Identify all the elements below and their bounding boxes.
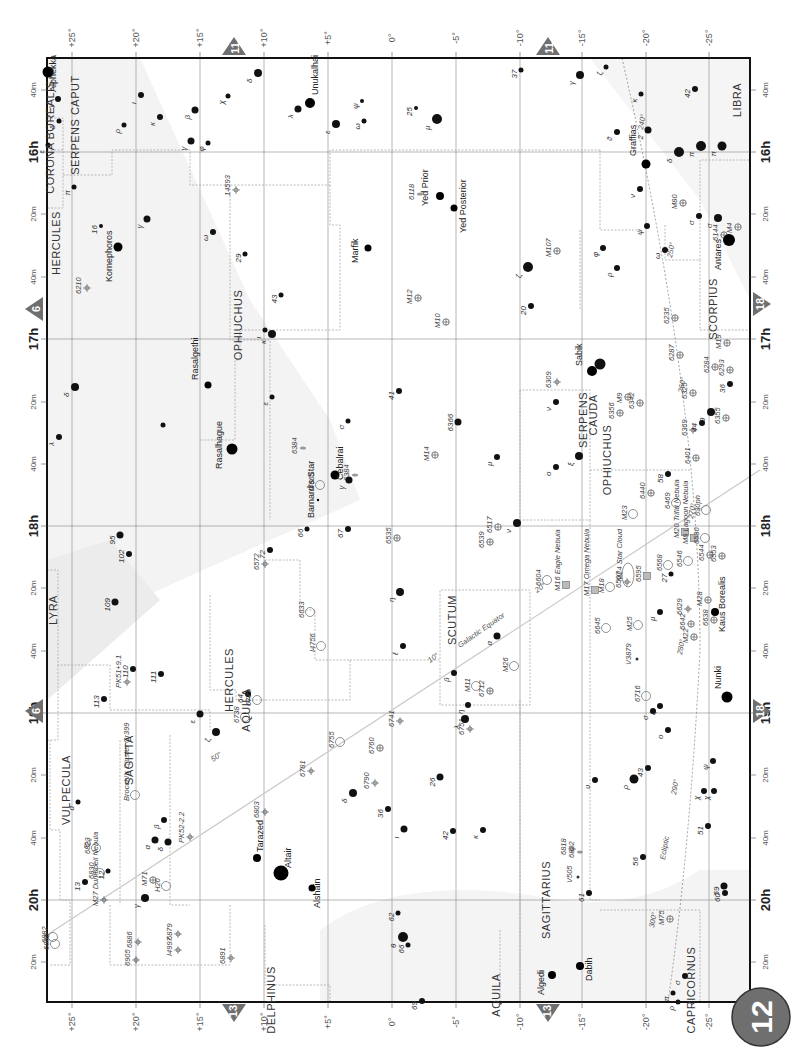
star-designation: ε <box>323 130 332 134</box>
nav-chart-number: 11 <box>543 42 555 54</box>
dso-label: 14593 <box>223 174 232 196</box>
star-marker <box>130 666 136 672</box>
constellation-name: HERCULES <box>50 211 62 275</box>
galaxy-icon <box>352 473 358 476</box>
nav-chart-number: 6 <box>30 708 42 714</box>
star-designation: 29 <box>234 253 243 263</box>
star-marker <box>461 715 469 723</box>
dso-label: 6535 <box>384 526 393 544</box>
star-designation: 36 <box>376 809 385 818</box>
dso-label: 6886 <box>125 930 134 948</box>
dso-label: V505 <box>565 865 574 883</box>
star-proper-name: Kornephoros <box>104 230 114 282</box>
star-designation: μ <box>485 461 494 467</box>
ra-label-left: 40m <box>29 830 38 846</box>
dso-label: M14 <box>422 446 431 461</box>
star-designation: μ <box>648 616 657 622</box>
dso-label: 6553 <box>709 544 718 562</box>
dec-label-bottom: +25° <box>67 1012 77 1031</box>
ra-label-left: 40m <box>29 643 38 659</box>
ra-label-left: 20h <box>26 889 41 911</box>
ra-label-right: 20m <box>761 767 770 783</box>
star-proper-name: Marfik <box>350 238 360 263</box>
star-designation: υ <box>583 784 592 789</box>
dec-label-bottom: 0° <box>387 1017 397 1026</box>
star-marker <box>212 728 220 736</box>
star-designation: χ <box>692 795 701 801</box>
star-designation: 20 <box>519 306 528 316</box>
dec-label-top: -5° <box>451 32 461 44</box>
constellation-name: SAGITTARIUS <box>540 861 552 939</box>
star-marker <box>710 758 716 764</box>
star-marker <box>432 114 442 124</box>
nav-chart-number: 6 <box>30 306 42 312</box>
ra-label-left: 20m <box>29 767 38 783</box>
star-designation: ε <box>188 720 197 724</box>
star-marker <box>161 423 166 428</box>
star-designation: δ <box>62 392 71 397</box>
star-marker <box>346 477 353 484</box>
star-designation: 111 <box>149 671 158 683</box>
ra-label-left: 40m <box>29 269 38 285</box>
dso-label: M26 <box>501 657 510 672</box>
ra-label-right: 40m <box>761 456 770 472</box>
star-marker <box>305 527 310 532</box>
star-designation: μ <box>423 125 432 131</box>
star-marker <box>640 854 646 860</box>
star-designation: 60 <box>713 893 722 902</box>
star-designation: ν <box>628 194 637 198</box>
star-marker <box>437 774 444 781</box>
star-marker <box>696 141 706 151</box>
star-marker <box>705 823 711 829</box>
star-designation: 61 <box>577 893 586 902</box>
star-marker <box>57 119 62 124</box>
star-designation: 110 <box>121 665 130 678</box>
dso-label: 6440 <box>638 481 647 499</box>
star-designation: 12 <box>97 870 106 879</box>
ra-label-right: 16h <box>758 141 773 163</box>
dso-label: M23 <box>620 505 629 520</box>
dec-label-top: +15° <box>195 28 205 47</box>
star-marker <box>528 303 534 309</box>
star-designation: 41 <box>387 391 396 400</box>
dso-label: 6369 <box>680 418 689 436</box>
star-designation: 56 <box>631 857 640 866</box>
constellation-name: OPHIUCHUS <box>601 425 613 496</box>
ra-label-left: 20m <box>29 206 38 222</box>
star-designation: ψ <box>701 764 710 770</box>
dso-label: 6342 <box>627 391 636 409</box>
star-designation: 13 <box>73 882 82 891</box>
star-designation: 43 <box>270 294 279 303</box>
ra-label-right: 40m <box>761 269 770 285</box>
dso-label: 6822 <box>567 840 576 858</box>
star-marker <box>614 265 620 271</box>
star-marker <box>586 890 592 896</box>
constellation-name: AQUILA <box>240 688 252 732</box>
star-designation: ϑ <box>605 136 614 141</box>
star-marker <box>671 991 676 996</box>
variable-star-icon <box>636 658 639 661</box>
dso-label: M17 Omega Nebula <box>582 529 591 596</box>
bright-star-marker <box>587 366 597 376</box>
ra-label-left: 40m <box>29 82 38 98</box>
dso-label: 6645 <box>593 616 602 634</box>
star-marker <box>595 359 606 370</box>
galaxy-icon <box>577 850 583 853</box>
star-marker <box>243 252 248 257</box>
bright-star-marker <box>365 245 372 252</box>
star-designation: π <box>63 190 72 196</box>
ra-label-left: 20m <box>29 394 38 410</box>
star-marker <box>637 186 643 192</box>
dso-label: 6891 <box>218 947 227 964</box>
dso-label: 6235 <box>662 306 671 324</box>
dec-label-top: -20° <box>641 29 651 46</box>
star-designation: ρ <box>667 1006 676 1012</box>
bright-star-marker <box>642 160 651 169</box>
star-designation: α <box>143 845 152 850</box>
constellation-name: CORONA <box>44 142 56 193</box>
star-marker <box>600 245 606 251</box>
star-marker <box>152 837 159 844</box>
dso-label: 6355 <box>713 406 722 424</box>
constellation-name: SAGITTA <box>123 735 135 785</box>
constellation-name: SERPENS CAPUT <box>69 75 81 174</box>
